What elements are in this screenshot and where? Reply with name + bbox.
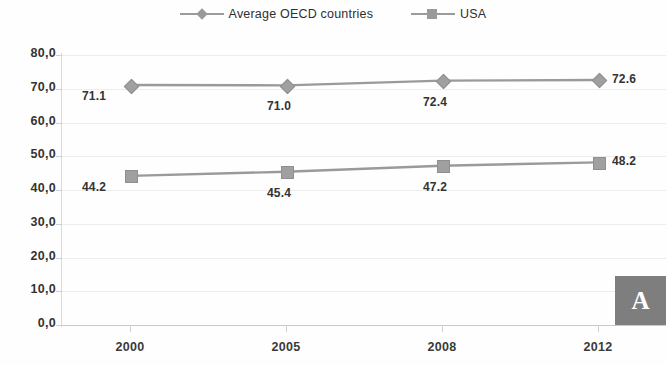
y-axis-tick-label: 10,0 (4, 282, 56, 296)
y-axis-tick (56, 123, 62, 124)
line-chart: Average OECD countries USA 0,010,020,030… (0, 0, 666, 365)
data-marker[interactable] (593, 157, 606, 170)
y-axis-tick (56, 55, 62, 56)
x-axis-tick-label: 2005 (251, 340, 321, 354)
plot-area (62, 55, 666, 325)
y-axis-tick-label: 40,0 (4, 181, 56, 195)
panel-label-a: A (615, 276, 666, 325)
data-marker[interactable] (437, 160, 450, 173)
data-marker[interactable] (281, 166, 294, 179)
legend-item-usa[interactable]: USA (411, 7, 486, 21)
data-point-label: 72.4 (423, 95, 447, 109)
y-axis-tick (56, 258, 62, 259)
x-axis-tick (598, 326, 599, 332)
y-axis-tick (56, 89, 62, 90)
data-point-label: 72.6 (612, 72, 636, 86)
square-marker-icon (427, 9, 437, 19)
y-axis-tick-label: 60,0 (4, 114, 56, 128)
legend-label-usa: USA (460, 7, 486, 21)
y-axis-tick (56, 325, 62, 326)
diamond-marker-icon (196, 8, 207, 19)
y-axis-tick (56, 156, 62, 157)
y-axis-tick-label: 50,0 (4, 147, 56, 161)
y-axis-tick-label: 30,0 (4, 215, 56, 229)
x-axis-tick (130, 326, 131, 332)
x-axis-line (61, 325, 666, 326)
legend-item-oecd[interactable]: Average OECD countries (180, 7, 374, 21)
data-point-label: 44.2 (82, 180, 106, 194)
y-axis-tick (56, 190, 62, 191)
gridline (62, 55, 666, 56)
y-axis-tick-label: 0,0 (4, 316, 56, 330)
y-axis-tick (56, 224, 62, 225)
x-axis-tick (286, 326, 287, 332)
gridline (62, 258, 666, 259)
legend-label-oecd: Average OECD countries (229, 7, 374, 21)
x-axis-tick-label: 2000 (95, 340, 165, 354)
x-axis-tick (442, 326, 443, 332)
legend-line-usa (411, 8, 455, 20)
data-point-label: 71.0 (267, 99, 291, 113)
y-axis-tick (56, 291, 62, 292)
data-point-label: 71.1 (82, 89, 106, 103)
x-axis-tick-label: 2008 (407, 340, 477, 354)
legend-line-oecd (180, 8, 224, 20)
data-point-label: 45.4 (267, 186, 291, 200)
y-axis-tick-label: 80,0 (4, 46, 56, 60)
x-axis-tick-label: 2012 (563, 340, 633, 354)
gridline (62, 291, 666, 292)
y-axis-tick-label: 70,0 (4, 80, 56, 94)
gridline (62, 190, 666, 191)
gridline (62, 224, 666, 225)
y-axis-labels: 0,010,020,030,040,050,060,070,080,0 (0, 0, 56, 365)
data-point-label: 47.2 (423, 180, 447, 194)
data-point-label: 48.2 (612, 154, 636, 168)
data-marker[interactable] (125, 170, 138, 183)
gridline (62, 89, 666, 90)
gridline (62, 123, 666, 124)
gridline (62, 156, 666, 157)
y-axis-tick-label: 20,0 (4, 249, 56, 263)
chart-legend: Average OECD countries USA (0, 2, 666, 26)
